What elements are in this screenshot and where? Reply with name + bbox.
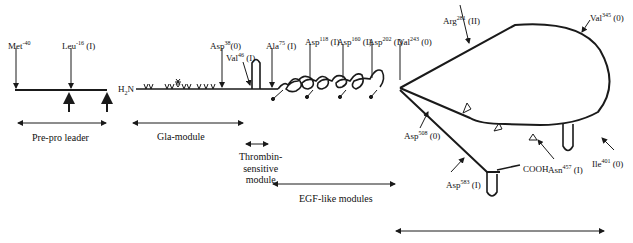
site-val345: Val345 (0) — [590, 12, 624, 23]
egf-chain — [278, 70, 384, 92]
site-asp508: Asp508 (0) — [404, 130, 440, 141]
subscript: 2 — [125, 90, 128, 96]
site-asp38: Asp38(0) — [210, 40, 241, 51]
protein-module-diagram: H2N COOH Met-40 Leu-16 (I) Asp38(0) Val4… — [0, 0, 633, 243]
site-met: Met-40 — [8, 40, 31, 51]
site-asn457: Asn457 (I) — [548, 164, 583, 175]
site-ala75: Ala75 (I) — [266, 40, 296, 51]
site-ile401: Ile401 (0) — [592, 158, 623, 169]
module-prepro-label: Pre-pro leader — [32, 132, 89, 144]
module-gla-label: Gla-module — [157, 131, 205, 143]
module-egf-label: EGF-like modules — [299, 193, 373, 205]
site-asp583: Asp583 (I) — [446, 179, 481, 190]
module-thrombin-label: Thrombin- sensitive module — [239, 151, 282, 186]
site-leu: Leu-16 (I) — [62, 40, 95, 51]
site-val46: Val46 (I) — [226, 52, 255, 63]
site-asp118: Asp118 (I) — [305, 36, 340, 47]
n-terminus-label: H2N — [118, 85, 134, 96]
site-arg281: Arg281 (II) — [443, 15, 480, 26]
site-asp160: Asp160 (I) — [337, 36, 372, 47]
c-terminus-label: COOH — [523, 165, 549, 174]
site-val243: Val243 (0) — [398, 36, 432, 47]
